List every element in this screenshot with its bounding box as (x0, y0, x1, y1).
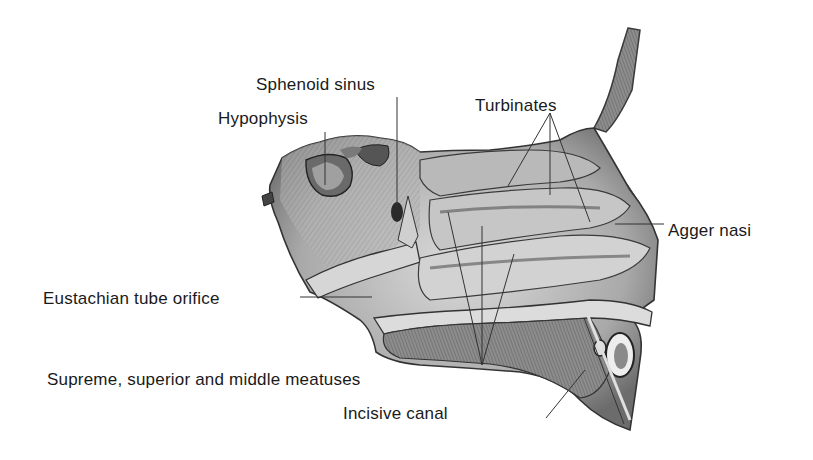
label-hypophysis: Hypophysis (218, 110, 308, 127)
label-agger-nasi: Agger nasi (668, 222, 751, 239)
label-sphenoid-sinus: Sphenoid sinus (256, 76, 375, 93)
anatomy-figure: Sphenoid sinus Hypophysis Turbinates Agg… (0, 0, 813, 460)
label-eustachian-tube-orifice: Eustachian tube orifice (43, 290, 220, 307)
label-turbinates: Turbinates (475, 97, 557, 114)
label-meatuses: Supreme, superior and middle meatuses (47, 371, 361, 388)
label-incisive-canal: Incisive canal (343, 405, 448, 422)
